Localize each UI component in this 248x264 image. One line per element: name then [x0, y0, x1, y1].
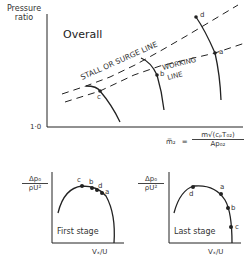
fs-y-label-num: Δp₀: [22, 175, 48, 184]
fs-point-a: [100, 191, 104, 195]
fs-point-c: [80, 184, 84, 188]
formula-denominator: Ap₀₂: [192, 140, 244, 148]
formula-lhs: m̅₂ =: [166, 138, 188, 146]
fs-label-d: d: [98, 182, 102, 190]
formula-fraction: m√(cₚT₀₂) Ap₀₂: [192, 131, 244, 148]
ls-label-a: a: [220, 183, 224, 191]
fs-x-label: Vₓ/U: [92, 248, 107, 256]
ls-title: Last stage: [174, 227, 215, 236]
formula-lhs-text: m̅₂: [166, 138, 176, 146]
ls-label-c: c: [235, 223, 239, 231]
ls-y-label-den: ρU²: [138, 184, 164, 192]
speed-line-a-d: [196, 17, 221, 100]
ls-point-b: [226, 206, 230, 210]
fs-label-c: c: [77, 176, 81, 184]
y-axis-label-line1: Pressure: [2, 4, 46, 13]
formula-numerator: m√(cₚT₀₂): [192, 131, 244, 140]
fs-y-label: Δp₀ ρU²: [22, 175, 48, 192]
fs-title: First stage: [57, 227, 99, 236]
ls-label-d: d: [189, 190, 193, 198]
ls-point-d: [191, 185, 195, 189]
fs-label-b: b: [89, 178, 93, 186]
ls-point-a: [219, 192, 223, 196]
point-b: [155, 73, 159, 77]
ls-label-b: b: [231, 204, 235, 212]
label-c: c: [97, 93, 101, 101]
overall-title: Overall: [63, 28, 102, 41]
y-axis-label: Pressure ratio: [2, 4, 46, 22]
y-axis-origin: 1·0: [30, 123, 41, 131]
formula-equals: =: [182, 138, 188, 146]
working-line-text-1: WORKING: [162, 56, 198, 72]
fs-label-a: a: [105, 188, 109, 196]
ls-y-label: Δp₀ ρU²: [138, 175, 164, 192]
ls-y-label-num: Δp₀: [138, 175, 164, 184]
working-line-text-2: LINE: [167, 70, 184, 82]
ls-x-label: Vₓ/U: [208, 248, 223, 256]
label-a: a: [219, 48, 223, 56]
y-axis-label-line2: ratio: [2, 13, 46, 22]
point-d: [194, 15, 198, 19]
speed-line-c: [86, 86, 120, 122]
ls-point-c: [229, 225, 233, 229]
point-a: [213, 51, 217, 55]
label-b: b: [160, 70, 164, 78]
stall-line-text: STALL OR SURGE LINE: [79, 40, 159, 82]
fs-point-b: [90, 186, 94, 190]
fs-y-label-den: ρU²: [22, 184, 48, 192]
label-d: d: [200, 11, 204, 19]
